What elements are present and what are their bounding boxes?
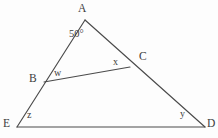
geometry-figure: A B C E D 50° w x z y — [0, 0, 218, 138]
vertex-label-C: C — [139, 51, 147, 63]
segment-AD — [85, 20, 205, 127]
angle-label-y: y — [180, 109, 185, 119]
angle-label-w: w — [54, 68, 61, 78]
vertex-label-A: A — [78, 3, 86, 15]
figure-canvas — [0, 0, 218, 138]
vertex-label-D: D — [207, 118, 215, 130]
vertex-label-E: E — [3, 118, 10, 130]
angle-label-z: z — [27, 110, 31, 120]
angle-label-apex-50: 50° — [69, 29, 84, 40]
angle-label-x: x — [113, 57, 118, 67]
vertex-label-B: B — [29, 73, 37, 85]
